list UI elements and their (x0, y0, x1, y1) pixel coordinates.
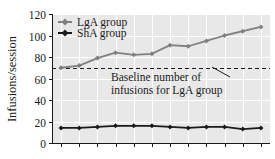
annotation-line-1: Baseline number of (111, 71, 201, 83)
legend-label-sha: ShA group (77, 27, 127, 40)
y-tick-label: 40 (35, 95, 47, 107)
chart-figure: 020406080100120 Infusions/session LgA gr… (0, 0, 275, 159)
y-tick-label: 120 (29, 9, 47, 21)
chart-canvas: 020406080100120 Infusions/session LgA gr… (0, 0, 275, 159)
annotation-line-2: infusions for LgA group (111, 84, 223, 97)
y-tick-label: 20 (35, 117, 47, 129)
y-tick-label: 100 (29, 31, 47, 43)
y-axis-title: Infusions/session (5, 35, 19, 122)
y-tick-label: 80 (35, 52, 47, 64)
y-tick-label: 0 (40, 138, 46, 150)
y-tick-label: 60 (35, 74, 47, 86)
